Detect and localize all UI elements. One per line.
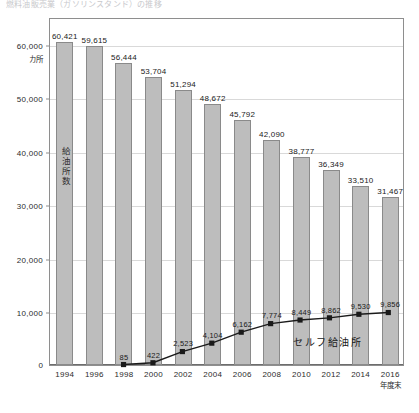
y-axis-tick-label: 60,000 (17, 41, 43, 50)
bar[interactable]: 36,349 (323, 170, 340, 365)
line-value-label: 9,530 (351, 302, 371, 311)
bar-value-label: 42,090 (259, 130, 285, 139)
bar-value-label: 48,672 (200, 94, 226, 103)
y-axis-tick-mark (46, 206, 50, 207)
bar[interactable]: 38,777 (293, 157, 310, 365)
y-axis-tick-mark (46, 99, 50, 100)
gridline (50, 313, 403, 314)
line-series-inline-label: セルフ給油所 (293, 337, 362, 349)
y-axis-tick-label: 50,000 (17, 95, 43, 104)
line-value-label: 4,104 (203, 331, 223, 340)
y-axis-tick-label: 10,000 (17, 309, 43, 318)
x-axis-tick-label: 2004 (203, 370, 222, 379)
gridline (50, 206, 403, 207)
line-value-label: 8,449 (292, 308, 312, 317)
bar[interactable]: 31,467 (382, 197, 399, 365)
line-value-label: 2,523 (173, 339, 193, 348)
x-axis-tick-label: 2014 (351, 370, 370, 379)
bar-value-label: 38,777 (289, 147, 315, 156)
bar-value-label: 45,792 (229, 110, 255, 119)
x-axis-tick-label: 2008 (262, 370, 281, 379)
line-value-label: 8,862 (321, 306, 341, 315)
bar-value-label: 56,444 (111, 53, 137, 62)
y-axis-unit-label: カ所 (29, 55, 43, 64)
line-value-label: 7,774 (262, 311, 282, 320)
line-value-label: 85 (120, 353, 129, 362)
x-axis-tick-label: 1998 (114, 370, 133, 379)
y-axis-tick-label: 40,000 (17, 148, 43, 157)
bar-value-label: 36,349 (318, 160, 344, 169)
gridline (50, 46, 403, 47)
gridline (50, 99, 403, 100)
y-axis-zero-label: 0 (39, 361, 43, 370)
bar-value-label: 59,615 (82, 36, 108, 45)
gridline (50, 260, 403, 261)
bar[interactable]: 51,294 (175, 90, 192, 365)
x-axis-tick-label: 2000 (144, 370, 163, 379)
x-axis-tick-label: 1996 (85, 370, 104, 379)
plot-area: 60,000カ所50,00040,00030,00020,00010,000 0… (49, 18, 404, 366)
bar-value-label: 51,294 (170, 80, 196, 89)
y-axis-tick-label: 20,000 (17, 255, 43, 264)
x-axis-tick-label: 1994 (55, 370, 74, 379)
line-value-label: 422 (147, 351, 160, 360)
x-axis-baseline (50, 364, 403, 365)
bar[interactable]: 42,090 (263, 140, 280, 365)
gridline (50, 153, 403, 154)
bar-value-label: 53,704 (141, 67, 167, 76)
x-axis-tick-label: 2012 (322, 370, 341, 379)
x-axis-tick-label: 2016 (381, 370, 400, 379)
y-axis-tick-mark (46, 259, 50, 260)
x-axis-tick-label: 2010 (292, 370, 311, 379)
line-value-label: 6,162 (232, 320, 252, 329)
bar[interactable]: 53,704 (145, 77, 162, 365)
bar-value-label: 33,510 (348, 176, 374, 185)
y-axis-tick-mark (46, 45, 50, 46)
y-axis-tick-mark (46, 152, 50, 153)
bar[interactable]: 48,672 (204, 104, 221, 365)
chart-figure: 60,000カ所50,00040,00030,00020,00010,000 0… (0, 0, 419, 413)
y-axis-tick-label: 30,000 (17, 202, 43, 211)
bar[interactable]: 60,421 (56, 42, 73, 365)
y-axis-tick-mark (46, 313, 50, 314)
bar[interactable]: 56,444 (115, 63, 132, 365)
bar-series-inline-label: 給油所数 (60, 147, 70, 187)
line-value-label: 9,856 (380, 300, 400, 309)
bar[interactable]: 59,615 (86, 46, 103, 365)
x-axis-tick-label: 2006 (233, 370, 252, 379)
bar-value-label: 60,421 (52, 32, 78, 41)
x-axis-tick-label: 2002 (174, 370, 193, 379)
x-axis-unit-label: 年度末 (380, 381, 401, 390)
bar-value-label: 31,467 (377, 187, 403, 196)
